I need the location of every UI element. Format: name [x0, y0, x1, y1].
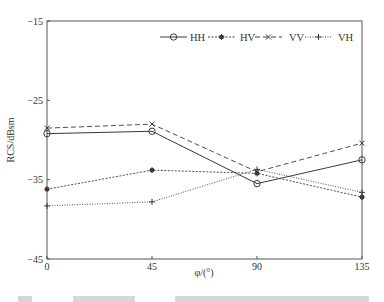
- x-tick-label: 90: [252, 261, 262, 272]
- x-axis-label: φ/(°): [194, 267, 213, 279]
- y-tick-label: −25: [27, 95, 43, 106]
- x-tick-label: 135: [355, 261, 370, 272]
- series-hv: [44, 167, 365, 200]
- legend-label: VH: [338, 32, 354, 43]
- legend-label: HV: [240, 32, 256, 43]
- plus-marker-icon: [359, 189, 365, 195]
- y-tick-label: −35: [27, 174, 43, 185]
- legend-item-hh: HH: [160, 32, 206, 43]
- y-tick-label: −45: [27, 254, 43, 265]
- y-axis-label: RCS/dBsm: [5, 117, 16, 162]
- plus-marker-icon: [44, 203, 50, 209]
- legend: HHHVVVVH: [160, 32, 354, 43]
- series-vv: [45, 122, 365, 175]
- rcs-line-chart: −15−25−35−45 04590135 φ/(°) RCS/dBsm HHH…: [0, 0, 384, 302]
- legend-item-vh: VH: [305, 32, 354, 43]
- plus-marker-icon: [149, 199, 155, 205]
- figure-caption-cutoff: [15, 296, 369, 302]
- legend-item-hv: HV: [208, 32, 256, 43]
- series-hh: [44, 128, 365, 187]
- x-tick-label: 0: [45, 261, 50, 272]
- legend-asterisk-icon: [219, 34, 225, 40]
- x-marker-icon: [150, 122, 155, 127]
- legend-label: VV: [289, 32, 305, 43]
- legend-plus-icon: [316, 34, 322, 40]
- plus-marker-icon: [254, 166, 260, 172]
- asterisk-marker-icon: [149, 167, 155, 173]
- asterisk-marker-icon: [44, 186, 50, 192]
- legend-item-vv: VV: [255, 32, 305, 43]
- y-tick-label: −15: [27, 16, 43, 27]
- series-layer: [44, 122, 365, 209]
- plot-frame: [47, 21, 362, 259]
- x-tick-label: 45: [147, 261, 157, 272]
- legend-label: HH: [190, 32, 206, 43]
- series-vh: [44, 166, 365, 208]
